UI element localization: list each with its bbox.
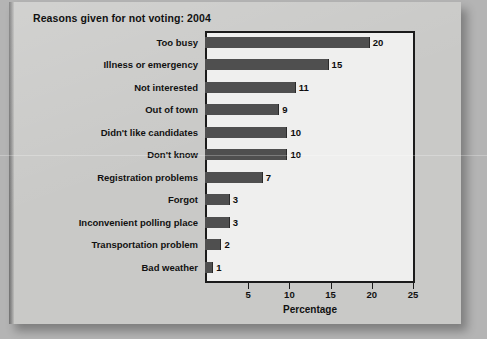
bar-value-label: 10 (290, 150, 301, 160)
category-label: Forgot (20, 189, 202, 212)
bar-row: 10 (205, 144, 415, 167)
bar (205, 217, 230, 228)
bar-value-label: 9 (282, 105, 287, 115)
bar-row: 20 (205, 31, 415, 54)
bar-value-label: 7 (266, 173, 271, 183)
bar-row: 3 (205, 189, 415, 212)
bar-value-label: 11 (299, 83, 309, 93)
category-label: Bad weather (20, 256, 202, 279)
bar (205, 104, 279, 115)
bar-row: 9 (205, 99, 415, 122)
bar (205, 82, 296, 93)
chart-title: Reasons given for not voting: 2004 (33, 12, 211, 24)
bar (205, 37, 370, 48)
bar-value-label: 3 (233, 195, 238, 205)
category-label: Didn't like candidates (20, 121, 202, 144)
category-label: Illness or emergency (20, 54, 202, 77)
category-label: Transportation problem (20, 234, 202, 257)
bar-value-label: 20 (373, 38, 384, 48)
bar (205, 172, 263, 183)
bar-value-label: 2 (224, 240, 229, 250)
bar (205, 59, 329, 70)
bar-row: 10 (205, 121, 415, 144)
bar (205, 239, 221, 250)
bar-row: 11 (205, 76, 415, 99)
category-label: Inconvenient polling place (20, 211, 202, 234)
category-label: Don't know (20, 144, 202, 167)
x-tick-label: 15 (325, 289, 336, 300)
bar (205, 127, 287, 138)
x-tick-label: 20 (367, 289, 378, 300)
x-axis-ticks: 510152025 (205, 283, 415, 303)
bar-row: 3 (205, 211, 415, 234)
category-label: Too busy (20, 31, 202, 54)
bar-value-label: 15 (332, 60, 343, 70)
bar (205, 262, 213, 273)
bar (205, 194, 230, 205)
category-axis-labels: Too busyIllness or emergencyNot interest… (20, 31, 202, 283)
bar-value-label: 3 (233, 218, 238, 228)
category-label: Not interested (20, 76, 202, 99)
bar-row: 15 (205, 54, 415, 77)
bar-row: 7 (205, 166, 415, 189)
x-tick-label: 10 (284, 289, 295, 300)
category-label: Registration problems (20, 166, 202, 189)
bar-value-label: 10 (290, 128, 301, 138)
category-label: Out of town (20, 99, 202, 122)
bar (205, 149, 287, 160)
bar-value-label: 1 (216, 263, 221, 273)
x-tick-label: 5 (246, 289, 251, 300)
x-tick-label: 25 (408, 289, 419, 300)
chart-page: Reasons given for not voting: 2004 Too b… (0, 0, 487, 339)
bar-row: 1 (205, 256, 415, 279)
page-spine-shadow (9, 2, 14, 324)
bar-row: 2 (205, 234, 415, 257)
x-axis-title: Percentage (205, 304, 415, 315)
bars-container: 2015119101073321 (205, 31, 415, 283)
